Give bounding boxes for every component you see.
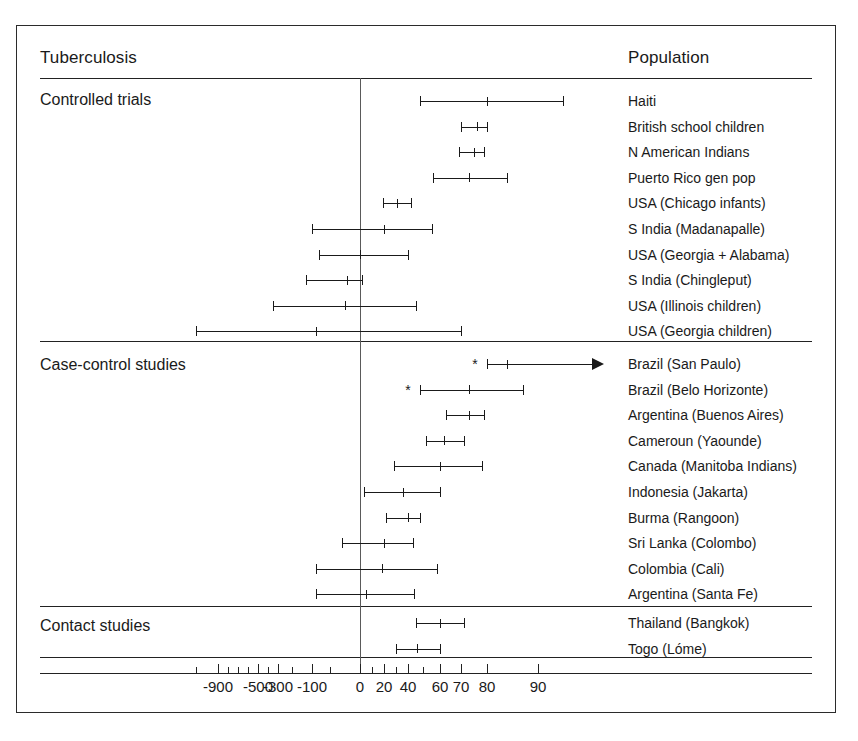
population-label: Haiti [628, 94, 656, 108]
error-bar-cap-high [411, 198, 412, 208]
error-bar-cap-high [432, 224, 433, 234]
error-bar-line [364, 492, 440, 493]
error-bar-cap-high [461, 326, 462, 336]
axis-tick [196, 667, 197, 673]
error-bar-cap-low [319, 250, 320, 260]
error-bar-cap-low [426, 436, 427, 446]
error-bar-cap-low [316, 589, 317, 599]
axis-tick-label: 60 [432, 678, 449, 695]
point-estimate-tick [408, 513, 409, 522]
error-bar-cap-high [437, 564, 438, 574]
error-bar-cap-low [459, 147, 460, 157]
error-bar-line [316, 594, 414, 595]
error-bar-cap-low [306, 275, 307, 285]
axis-tick-label: 40 [400, 678, 417, 695]
axis-tick-label: -300 [263, 678, 293, 695]
population-label: Togo (Lóme) [628, 642, 707, 656]
population-label: Thailand (Bangkok) [628, 616, 749, 630]
axis-tick [360, 664, 361, 673]
error-bar-line [342, 543, 413, 544]
population-label: S India (Madanapalle) [628, 222, 765, 236]
error-bar-cap-high [507, 173, 508, 183]
error-bar-cap-high [413, 538, 414, 548]
error-bar-cap-low [433, 173, 434, 183]
error-bar-cap-low [386, 513, 387, 523]
point-estimate-tick [440, 619, 441, 628]
population-label: USA (Chicago infants) [628, 196, 766, 210]
point-estimate-tick [316, 327, 317, 336]
point-estimate-tick [360, 250, 361, 259]
error-bar-cap-high [440, 487, 441, 497]
zero-reference-line [360, 78, 361, 673]
point-estimate-tick [403, 488, 404, 497]
population-label: S India (Chingleput) [628, 273, 752, 287]
error-bar-cap-low [273, 301, 274, 311]
population-label: Argentina (Buenos Aires) [628, 408, 784, 422]
error-bar-cap-high [420, 513, 421, 523]
error-bar-cap-high [440, 644, 441, 654]
axis-tick [248, 667, 249, 673]
point-estimate-tick [440, 462, 441, 471]
error-bar-cap-high [523, 385, 524, 395]
header-rule [40, 78, 812, 79]
error-bar-line [459, 152, 485, 153]
error-bar-cap-low [420, 385, 421, 395]
population-label: USA (Illinois children) [628, 299, 761, 313]
population-label: Indonesia (Jakarta) [628, 485, 748, 499]
axis-tick [218, 664, 219, 673]
point-estimate-tick [469, 385, 470, 394]
error-bar-cap-low [364, 487, 365, 497]
error-bar-cap-low [342, 538, 343, 548]
error-bar-cap-high [484, 147, 485, 157]
error-bar-line [319, 255, 408, 256]
error-bar-cap-high [482, 461, 483, 471]
error-bar-cap-high [464, 618, 465, 628]
point-estimate-tick [444, 436, 445, 445]
axis-tick [330, 667, 331, 673]
axis-tick [487, 664, 488, 673]
population-label: USA (Georgia + Alabama) [628, 248, 789, 262]
error-bar-cap-low [312, 224, 313, 234]
rule-below-case-control-studies [40, 606, 812, 607]
error-bar-line [394, 466, 482, 467]
error-bar-cap-low [383, 198, 384, 208]
point-estimate-tick [487, 97, 488, 106]
error-bar-cap-high [464, 436, 465, 446]
error-bar-cap-low [420, 96, 421, 106]
error-bar-line [396, 649, 440, 650]
axis-tick [461, 664, 462, 673]
population-label: British school children [628, 120, 764, 134]
error-bar-cap-low [394, 461, 395, 471]
axis-tick-label: -100 [297, 678, 327, 695]
axis-tick [268, 667, 269, 673]
point-estimate-tick [417, 644, 418, 653]
error-bar-line [420, 390, 523, 391]
error-bar-cap-low [487, 359, 488, 369]
population-label: Argentina (Santa Fe) [628, 587, 758, 601]
forest-plot-figure: Tuberculosis Population Controlled trial… [0, 0, 858, 741]
error-bar-cap-high [487, 122, 488, 132]
axis-tick-label: 80 [479, 678, 496, 695]
axis-tick [228, 667, 229, 673]
point-estimate-tick [507, 360, 508, 369]
axis-tick-label: 90 [530, 678, 547, 695]
error-bar-line [312, 229, 432, 230]
population-label: USA (Georgia children) [628, 324, 772, 338]
error-bar-cap-low [461, 122, 462, 132]
population-label: Brazil (Belo Horizonte) [628, 383, 768, 397]
error-bar-cap-low [316, 564, 317, 574]
error-bar-cap-low [196, 326, 197, 336]
error-bar-line [316, 569, 437, 570]
axis-tick-label: 20 [376, 678, 393, 695]
error-bar-line [487, 364, 592, 365]
error-bar-line [433, 178, 507, 179]
error-bar-cap-high [362, 275, 363, 285]
axis-tick [292, 667, 293, 673]
error-bar-cap-high [416, 301, 417, 311]
error-bar-line [446, 415, 484, 416]
error-bar-cap-high [414, 589, 415, 599]
error-bar-line [420, 101, 563, 102]
axis-tick [440, 664, 441, 673]
error-bar-cap-low [446, 410, 447, 420]
x-axis-line [40, 673, 812, 674]
